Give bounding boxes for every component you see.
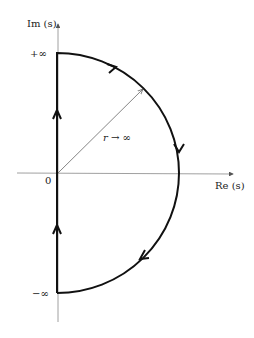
arrow-right-icon: [107, 64, 116, 73]
real-axis: [17, 173, 233, 174]
radius-label: r → ∞: [103, 132, 131, 143]
minus-infinity-label: −∞: [32, 288, 49, 299]
real-axis-label: Re (s): [215, 180, 245, 191]
arrow-down-icon: [174, 144, 184, 152]
imag-axis-label: Im (s): [27, 18, 57, 29]
plus-infinity-label: +∞: [30, 48, 47, 59]
radius-line: [58, 89, 143, 173]
nyquist-diagram: Im (s) Re (s) 0 +∞ −∞ r → ∞: [0, 0, 254, 338]
origin-label: 0: [45, 175, 51, 186]
